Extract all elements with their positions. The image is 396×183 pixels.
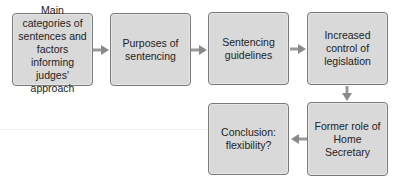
node-guidelines: Sentencing guidelines [208, 12, 289, 85]
node-conclusion: Conclusion: flexibility? [208, 103, 289, 175]
node-label: Main categories of sentences and factors… [16, 4, 89, 95]
node-label: Increased control of legislation [311, 29, 384, 68]
arrow-right-icon [191, 44, 208, 56]
arrow-right-icon [93, 44, 110, 56]
node-label: Conclusion: flexibility? [212, 126, 285, 152]
node-label: Purposes of sentencing [114, 37, 187, 63]
node-main-categories: Main categories of sentences and factors… [12, 13, 93, 86]
arrow-right-icon [290, 43, 307, 55]
arrow-down-icon [341, 86, 353, 102]
node-purposes: Purposes of sentencing [110, 13, 191, 86]
node-legislation: Increased control of legislation [307, 12, 388, 85]
faint-divider-line [0, 129, 230, 130]
node-home-secretary: Former role of Home Secretary [307, 102, 388, 176]
arrow-left-icon [290, 133, 307, 145]
node-label: Sentencing guidelines [212, 36, 285, 62]
node-label: Former role of Home Secretary [311, 120, 384, 159]
